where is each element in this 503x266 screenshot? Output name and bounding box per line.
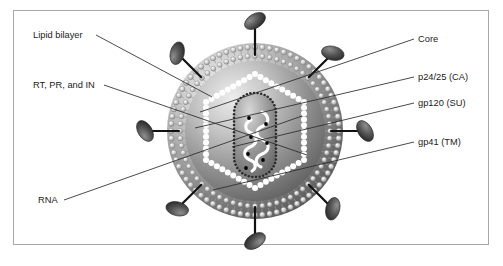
capsid-subunit [263,77,269,83]
lipid-head-outer [173,100,178,105]
capsid-subunit [301,105,307,111]
capsid-subunit [225,87,231,93]
lipid-head-inner [224,59,229,64]
lipid-head-outer [267,211,272,216]
lipid-head-inner [294,191,299,196]
nucleocapsid-subunit [275,158,278,161]
capsid-subunit [301,116,307,122]
lipid-head-inner [245,203,250,208]
lipid-head-inner [186,93,191,98]
lipid-head-outer [288,204,293,209]
nucleocapsid-subunit [248,175,251,178]
lipid-head-outer [176,164,181,169]
nucleocapsid-subunit [275,151,278,154]
nucleocapsid-subunit [234,164,237,167]
lipid-head-inner [324,150,329,155]
nucleocapsid-subunit [237,99,240,102]
lipid-head-outer [274,47,279,52]
lipid-head-inner [324,107,329,112]
lipid-head-outer [170,114,175,119]
spike-top-left [168,40,201,77]
nucleocapsid-subunit [233,135,236,138]
nucleocapsid-subunit [233,113,236,116]
label-p24-25-ca: p24/25 (CA) [418,72,468,82]
capsid-subunit [279,169,285,175]
lipid-head-outer [231,47,236,52]
label-core: Core [418,34,438,44]
capsid-subunit [247,182,253,188]
capsid-subunit [230,173,236,179]
nucleocapsid-subunit [275,147,278,150]
lipid-head-inner [326,143,331,148]
lipid-head-outer [300,197,305,202]
nucleocapsid-subunit [255,176,258,179]
capsid-subunit [301,157,307,163]
capsid-subunit [203,111,209,117]
lipid-head-outer [204,59,209,64]
lipid-head-inner [322,100,327,105]
label-gp41-tm: gp41 (TM) [418,137,461,147]
capsid-subunit [203,140,209,146]
lipid-head-inner [281,198,286,203]
lipid-head-inner [211,191,216,196]
lipid-head-inner [288,62,293,67]
lipid-head-outer [274,209,279,214]
capsid-subunit [252,71,258,77]
lipid-head-inner [231,200,236,205]
lipid-head-inner [300,186,305,191]
gp120-head [320,44,346,63]
lipid-head-inner [238,202,243,207]
nucleocapsid-subunit [236,167,239,170]
lipid-head-inner [186,164,191,169]
gp120-head [323,196,342,222]
capsid-subunit [230,83,236,89]
lipid-head-outer [183,176,188,181]
lipid-head-inner [178,121,183,126]
enzyme-dot [247,116,251,120]
lipid-head-outer [325,86,330,91]
lipid-head-inner [288,195,293,200]
lipid-head-inner [294,66,299,71]
nucleocapsid-subunit [233,109,236,112]
lipid-head-outer [306,64,311,69]
nucleocapsid-subunit [233,157,236,160]
nucleocapsid-subunit [271,168,274,171]
capsid-subunit [247,74,253,80]
lipid-head-inner [319,93,324,98]
nucleocapsid-subunit [258,175,261,178]
lipid-head-outer [169,136,174,141]
capsid-subunit [279,87,285,93]
spike-bottom-right [309,185,342,222]
capsid-subunit [301,140,307,146]
lipid-head-outer [335,143,340,148]
nucleocapsid-subunit [238,170,241,173]
lipid-head-inner [195,176,200,181]
lipid-head-inner [267,202,272,207]
leader-line-lipid-bilayer [96,35,212,97]
capsid-subunit [203,151,209,157]
lipid-head-inner [190,170,195,175]
lipid-head-inner [245,54,250,59]
nucleocapsid-subunit [275,129,278,132]
lipid-head-outer [231,209,236,214]
lipid-head-outer [180,86,185,91]
lipid-head-outer [169,121,174,126]
lipid-head-outer [176,93,181,98]
lipid-head-outer [198,64,203,69]
nucleocapsid-subunit [272,165,275,168]
lipid-head-outer [188,182,193,187]
nucleocapsid-subunit [233,153,236,156]
lipid-head-outer [300,59,305,64]
lipid-head-inner [281,59,286,64]
capsid-subunit [290,93,296,99]
lipid-head-outer [217,52,222,57]
capsid-subunit [241,77,247,83]
capsid-subunit [268,80,274,86]
lipid-head-inner [322,157,327,162]
nucleocapsid-subunit [251,176,254,179]
nucleocapsid-subunit [275,115,278,118]
label-lipid-bilayer: Lipid bilayer [33,30,83,40]
nucleocapsid-subunit [260,92,263,95]
nucleocapsid-subunit [269,98,272,101]
lipid-head-inner [274,200,279,205]
